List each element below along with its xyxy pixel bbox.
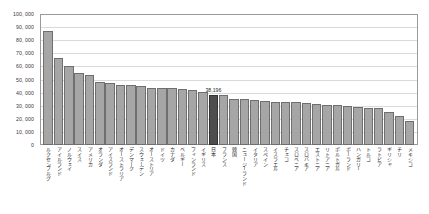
bar	[291, 102, 300, 145]
category-label: スイス	[77, 147, 82, 211]
category-label-slot: 韓国	[229, 147, 238, 211]
category-label: スウェーデン	[139, 147, 144, 211]
bar-slot	[312, 14, 321, 145]
category-label-slot: イスラエル	[271, 147, 280, 211]
category-label-slot: エストニア	[312, 147, 321, 211]
category-label-slot: オーストリア	[147, 147, 156, 211]
bar-slot	[116, 14, 125, 145]
bar-slot: 38,196	[209, 14, 218, 145]
bar-slot	[54, 14, 63, 145]
bar-slot	[85, 14, 94, 145]
y-axis-tick-label: 0	[31, 142, 34, 148]
bar-slot	[291, 14, 300, 145]
bar-slot	[364, 14, 373, 145]
bar	[322, 105, 331, 145]
category-label-slot: ギリシャ	[384, 147, 393, 211]
bar	[157, 88, 166, 145]
bar-slot	[105, 14, 114, 145]
category-label: ルクセンブルグ	[46, 147, 51, 211]
category-label-slot: ノルウェイ	[64, 147, 73, 211]
category-label: イタリア	[252, 147, 257, 211]
bar-slot	[126, 14, 135, 145]
category-label-slot: スロバキア	[302, 147, 311, 211]
y-axis-tick-label: 100, 000	[13, 11, 34, 17]
bar	[405, 121, 414, 145]
category-label: フィンランド	[190, 147, 195, 211]
bar-slot	[157, 14, 166, 145]
bar	[136, 86, 145, 145]
bar	[240, 99, 249, 145]
bar-slot	[322, 14, 331, 145]
y-axis-tick-label: 90, 000	[16, 24, 34, 30]
bar	[384, 112, 393, 145]
bar-slot	[64, 14, 73, 145]
category-label: カナダ	[170, 147, 175, 211]
category-label-slot: アイルランド	[54, 147, 63, 211]
category-label: ノルウェイ	[66, 147, 71, 211]
bar	[147, 88, 156, 145]
category-label-slot: イタリア	[250, 147, 259, 211]
category-label: ポーランド	[345, 147, 350, 211]
category-label-slot: スペイン	[260, 147, 269, 211]
bar	[271, 102, 280, 145]
bar	[43, 31, 52, 145]
bar-slot	[167, 14, 176, 145]
x-axis-category-labels: ルクセンブルグアイルランドノルウェイスイスアメリカオランダアイスランドオーストラ…	[40, 147, 418, 211]
category-label-slot: 日本	[209, 147, 218, 211]
category-label: ポルトガル	[335, 147, 340, 211]
category-label: エストニア	[314, 147, 319, 211]
bar	[229, 99, 238, 146]
category-label-slot: ポルトガル	[333, 147, 342, 211]
bar	[343, 106, 352, 145]
bar	[64, 66, 73, 145]
bar	[333, 105, 342, 145]
category-label: デンマーク	[128, 147, 133, 211]
category-label-slot: スロベニア	[291, 147, 300, 211]
category-label: アイルランド	[56, 147, 61, 211]
bar-slot	[343, 14, 352, 145]
category-label: ドイツ	[159, 147, 164, 211]
category-label: ハンガリー	[355, 147, 360, 211]
category-label-slot: リトアニア	[322, 147, 331, 211]
y-axis-tick-label: 20, 000	[16, 116, 34, 122]
category-label-slot: ドイツ	[157, 147, 166, 211]
bar	[178, 89, 187, 145]
bar-slot	[281, 14, 290, 145]
y-axis-tick-label: 60, 000	[16, 63, 34, 69]
category-label: スロベニア	[293, 147, 298, 211]
category-label: オーストラリア	[118, 147, 123, 211]
bar-slot	[374, 14, 383, 145]
category-label: ニュージーランド	[242, 147, 247, 211]
bar	[126, 85, 135, 145]
category-label-slot: フランス	[219, 147, 228, 211]
bar	[364, 108, 373, 145]
category-label-slot: スイス	[74, 147, 83, 211]
bar-slot	[74, 14, 83, 145]
category-label-slot: フィンランド	[188, 147, 197, 211]
category-label: アメリカ	[87, 147, 92, 211]
bar-chart: 100, 00090, 00080, 00070, 00060, 00050, …	[0, 0, 429, 214]
y-axis: 100, 00090, 00080, 00070, 00060, 00050, …	[0, 14, 38, 145]
bar	[302, 103, 311, 145]
bar	[198, 92, 207, 145]
bar-slot	[384, 14, 393, 145]
category-label-slot: ハンガリー	[353, 147, 362, 211]
category-label-slot: オーストラリア	[116, 147, 125, 211]
bar-slot	[395, 14, 404, 145]
category-label-slot: デンマーク	[126, 147, 135, 211]
bar	[116, 85, 125, 145]
category-label: チェコ	[283, 147, 288, 211]
bar	[167, 88, 176, 145]
category-label-slot: アイスランド	[105, 147, 114, 211]
bar-slot	[333, 14, 342, 145]
category-label: イギリス	[201, 147, 206, 211]
bar	[105, 83, 114, 145]
category-label: ギリシャ	[386, 147, 391, 211]
bar	[250, 100, 259, 145]
category-label-slot: イギリス	[198, 147, 207, 211]
category-label-slot: ポーランド	[343, 147, 352, 211]
category-label-slot: トルコ	[364, 147, 373, 211]
category-label-slot: チリ	[395, 147, 404, 211]
bar-slot	[260, 14, 269, 145]
category-label: チリ	[397, 147, 402, 211]
